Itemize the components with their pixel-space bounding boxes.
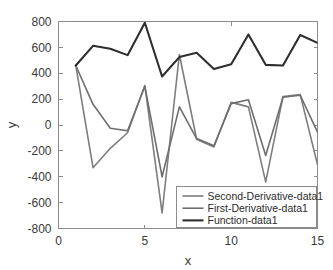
series-line-2 <box>76 23 318 77</box>
y-tick-label: -600 <box>27 196 51 210</box>
y-tick-label: 400 <box>31 66 51 80</box>
y-tick-label: 800 <box>31 15 51 29</box>
y-tick-label: 600 <box>31 41 51 55</box>
series-line-1 <box>76 65 318 176</box>
y-tick-label: -400 <box>27 170 51 184</box>
x-tick-label: 15 <box>311 234 325 248</box>
x-tick-label: 10 <box>224 234 238 248</box>
legend-label-1[interactable]: First-Derivative-data1 <box>208 202 309 214</box>
y-axis-title: y <box>4 121 19 128</box>
y-tick-label: 0 <box>45 118 52 132</box>
legend-label-2[interactable]: Function-data1 <box>208 214 278 226</box>
plot-canvas: -800-600-400-2000200400600800051015xySec… <box>0 0 333 270</box>
x-tick-label: 5 <box>141 234 148 248</box>
y-tick-label: 200 <box>31 92 51 106</box>
x-tick-label: 0 <box>55 234 62 248</box>
y-tick-label: -200 <box>27 144 51 158</box>
y-tick-label: -800 <box>27 222 51 236</box>
x-axis-title: x <box>185 253 192 268</box>
chart-figure: -800-600-400-2000200400600800051015xySec… <box>0 0 333 270</box>
legend-label-0[interactable]: Second-Derivative-data1 <box>208 190 324 202</box>
